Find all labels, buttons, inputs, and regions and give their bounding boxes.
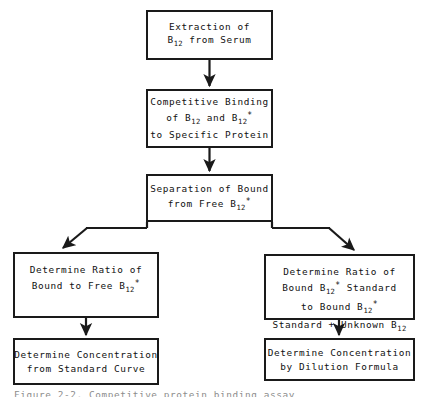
binding-line-3: to Specific Protein: [150, 129, 269, 140]
arrow-separation-to-ratio-free: [63, 222, 147, 248]
separation-line-1: Separation of Bound: [150, 183, 269, 194]
extraction-line-1: Extraction of: [169, 21, 250, 32]
node-ratio-free-text: Determine Ratio of Bound to Free B12*: [30, 254, 142, 316]
conc-dilution-line-2: by Dilution Formula: [280, 361, 399, 372]
node-conc-dilution-text: Determine Concentration by Dilution Form…: [268, 346, 412, 373]
conc-curve-line-1: Determine Concentration: [14, 349, 158, 360]
ratio-standard-line-3-sub: 12: [363, 306, 372, 315]
node-determine-ratio-bound-standard: Determine Ratio of Bound B12* Standard t…: [264, 254, 415, 320]
node-conc-curve-text: Determine Concentration from Standard Cu…: [14, 348, 158, 375]
node-determine-ratio-bound-to-free: Determine Ratio of Bound to Free B12*: [13, 252, 159, 318]
node-determine-concentration-dilution-formula: Determine Concentration by Dilution Form…: [264, 338, 415, 381]
flowchart-figure: Extraction of B12 from Serum Competitive…: [0, 0, 429, 397]
ratio-free-line-2-pre: Bound to Free B: [32, 280, 126, 291]
node-separation-of-bound-from-free: Separation of Bound from Free B12*: [146, 174, 273, 222]
separation-line-2-pre: from Free B: [168, 198, 237, 209]
node-ratio-standard-text: Determine Ratio of Bound B12* Standard t…: [272, 256, 406, 318]
ratio-free-line-2-star: *: [135, 279, 140, 288]
ratio-standard-line-4-sub: 12: [397, 324, 406, 333]
ratio-standard-line-3-star: *: [373, 300, 378, 309]
binding-line-2-star: *: [247, 111, 252, 120]
ratio-free-line-1: Determine Ratio of: [30, 264, 142, 275]
ratio-standard-line-2-sub: 12: [326, 287, 335, 296]
node-separation-text: Separation of Bound from Free B12*: [150, 182, 269, 215]
ratio-standard-line-1: Determine Ratio of: [283, 266, 395, 277]
node-binding-text: Competitive Binding of B12 and B12* to S…: [150, 95, 269, 142]
binding-line-2-a: of B: [166, 112, 191, 123]
separation-line-2-sub: 12: [236, 203, 245, 212]
ratio-standard-line-4-pre: Standard + Unknown B: [272, 319, 397, 330]
ratio-free-line-2-sub: 12: [125, 285, 134, 294]
node-competitive-binding: Competitive Binding of B12 and B12* to S…: [146, 89, 273, 148]
binding-line-1: Competitive Binding: [150, 96, 269, 107]
node-determine-concentration-standard-curve: Determine Concentration from Standard Cu…: [13, 338, 159, 385]
arrow-separation-to-ratio-standard: [272, 222, 354, 250]
binding-line-2-b: and B: [201, 112, 238, 123]
node-extraction-of-b12-from-serum: Extraction of B12 from Serum: [146, 10, 273, 60]
conc-dilution-line-1: Determine Concentration: [268, 347, 412, 358]
binding-line-2-sub-b: 12: [238, 117, 247, 126]
ratio-standard-line-2-post: Standard: [341, 282, 397, 293]
extraction-line-2-sub: 12: [174, 39, 183, 48]
binding-line-2-sub-a: 12: [191, 117, 200, 126]
ratio-standard-line-3-pre: to Bound B: [301, 301, 363, 312]
node-extraction-text: Extraction of B12 from Serum: [167, 20, 251, 51]
conc-curve-line-2: from Standard Curve: [27, 363, 146, 374]
ratio-standard-line-2-pre: Bound B: [282, 282, 326, 293]
figure-caption: Figure 2-2. Competitive protein binding …: [14, 389, 295, 397]
extraction-line-2-post: from Serum: [183, 34, 252, 45]
separation-line-2-star: *: [246, 197, 251, 206]
